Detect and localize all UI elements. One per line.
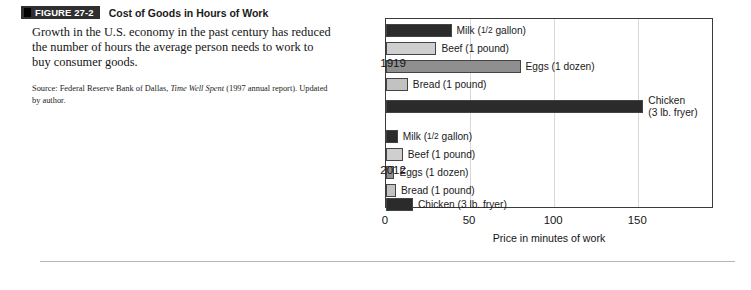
fraction-glyph: 1/2 [481,25,493,35]
bar-label: Bread (1 pound) [413,79,487,91]
year-label-1919: 1919 [346,56,406,69]
bar-label: Beef (1 pound) [408,149,475,161]
bar-1919-eggs [386,60,521,73]
x-tick-label-100: 100 [544,214,563,226]
x-tick-label-150: 150 [628,214,647,226]
bar-row: Bread (1 pound) [386,78,487,91]
bar-label: Bread (1 pound) [401,185,475,197]
bar-1919-beef [386,42,436,55]
source-title-italic: Time Well Spent [170,84,224,93]
bar-row: Chicken (3 lb. fryer) [386,100,698,113]
bar-label: Milk (1/2 gallon) [403,131,472,143]
figure-header: FIGURE 27-2 Cost of Goods in Hours of Wo… [21,6,351,19]
bar-2012-chicken [386,198,413,211]
plot-frame: Milk (1/2 gallon)Beef (1 pound)Eggs (1 d… [385,18,713,208]
year-label-2012: 2012 [346,163,406,176]
bar-row: Milk (1/2 gallon) [386,24,526,37]
bar-1919-chicken (3 [386,100,643,113]
bar-label: Chicken (3 lb. fryer) [648,95,697,118]
bar-1919-bread [386,78,408,91]
x-tick-label-50: 50 [463,214,476,226]
bar-2012-milk [386,130,398,143]
bar-row: Beef (1 pound) [386,148,475,161]
figure-caption: Growth in the U.S. economy in the past c… [32,25,332,71]
bar-2012-beef [386,148,403,161]
bar-row: Beef (1 pound) [386,42,509,55]
fraction-glyph: 1/2 [427,131,439,141]
bar-2012-bread [386,184,396,197]
bar-row: Eggs (1 dozen) [386,60,595,73]
bars-layer: Milk (1/2 gallon)Beef (1 pound)Eggs (1 d… [386,19,712,207]
x-axis-title: Price in minutes of work [385,232,713,244]
source-prefix: Source: Federal Reserve Bank of Dallas, [32,84,170,93]
bar-row: Milk (1/2 gallon) [386,130,472,143]
bar-1919-milk [386,24,452,37]
bar-label: Beef (1 pound) [441,43,508,55]
bar-label: Chicken (3 lb. fryer) [418,199,507,211]
bar-label: Eggs (1 dozen) [399,167,468,179]
figure-text-column: FIGURE 27-2 Cost of Goods in Hours of Wo… [21,6,351,115]
figure-source: Source: Federal Reserve Bank of Dallas, … [32,83,337,106]
x-tick-label-0: 0 [382,214,388,226]
figure-number-badge: FIGURE 27-2 [21,6,100,19]
bar-label: Milk (1/2 gallon) [457,25,526,37]
chart: Milk (1/2 gallon)Beef (1 pound)Eggs (1 d… [338,10,738,250]
bar-label: Eggs (1 dozen) [526,61,595,73]
figure-title: Cost of Goods in Hours of Work [109,7,269,19]
bar-row: Chicken (3 lb. fryer) [386,198,507,211]
bar-row: Bread (1 pound) [386,184,475,197]
bottom-divider [40,261,735,262]
